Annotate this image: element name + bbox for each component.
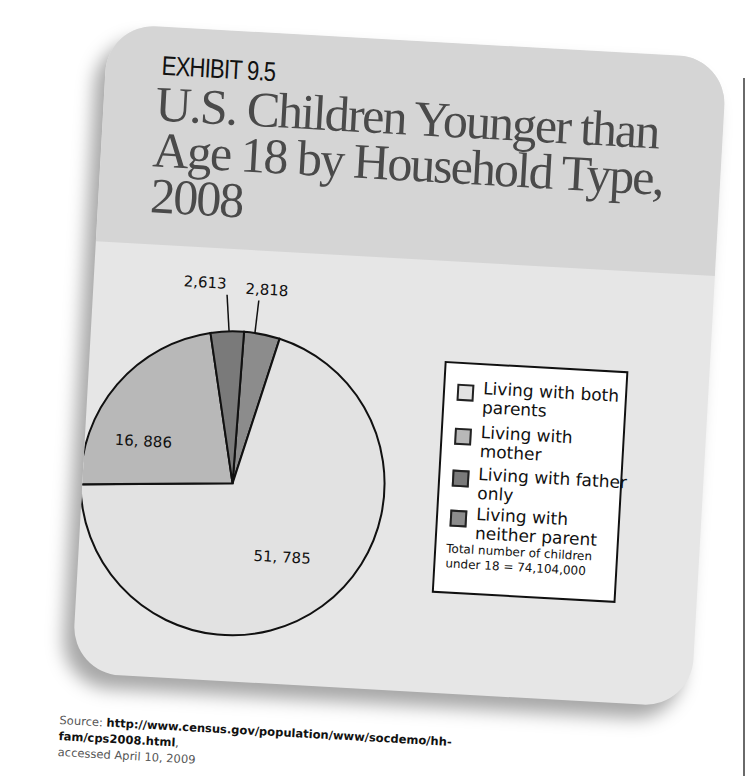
legend-label: Living with mother xyxy=(479,423,631,469)
source-prefix: Source: xyxy=(59,713,107,730)
chart-legend: Living with both parents Living with mot… xyxy=(432,361,629,603)
legend-label: Living with both parents xyxy=(482,379,634,425)
slice-label-father: 2,613 xyxy=(183,272,227,292)
exhibit-card-wrapper: EXHIBIT 9.5 U.S. Children Younger than A… xyxy=(0,0,752,776)
pie-slices xyxy=(72,323,392,643)
legend-swatch-icon xyxy=(454,428,472,446)
legend-swatch-icon xyxy=(452,470,470,488)
slice-label-neither: 2,818 xyxy=(245,280,289,300)
exhibit-card: EXHIBIT 9.5 U.S. Children Younger than A… xyxy=(72,24,727,708)
legend-swatch-icon xyxy=(449,510,467,528)
leader-lines xyxy=(225,295,259,333)
slice-label-mother: 16, 886 xyxy=(114,431,172,452)
slice-label-both: 51, 785 xyxy=(253,547,311,568)
pie-chart: 51, 785 16, 886 2,613 2,818 xyxy=(72,24,727,708)
source-suffix: , xyxy=(175,735,179,749)
legend-swatch-icon xyxy=(457,384,475,402)
